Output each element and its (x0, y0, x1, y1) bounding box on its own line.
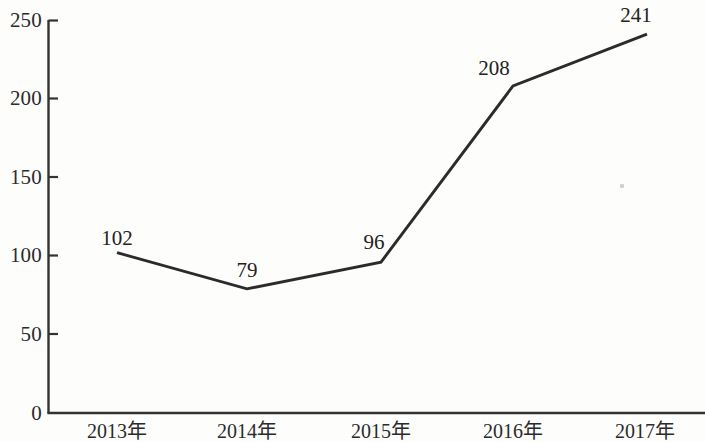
y-tick-label-50: 50 (0, 324, 42, 345)
y-tick-label-150: 150 (0, 167, 42, 188)
y-tick-label-200: 200 (0, 88, 42, 109)
data-label-2015: 96 (324, 232, 424, 253)
data-label-2016: 208 (444, 58, 544, 79)
y-axis-ticks (49, 21, 59, 335)
data-label-2014: 79 (197, 260, 297, 281)
data-label-2013: 102 (67, 228, 167, 249)
chart-figure: 250 200 150 100 50 0 2013年 2014年 2015年 2… (0, 0, 705, 442)
x-tick-label-2013: 2013年 (57, 421, 177, 441)
x-tick-label-2015: 2015年 (321, 421, 441, 441)
x-tick-label-2017: 2017年 (585, 421, 705, 441)
data-label-2017: 241 (586, 5, 686, 26)
x-tick-label-2016: 2016年 (453, 421, 573, 441)
y-tick-label-250: 250 (0, 10, 42, 31)
x-tick-label-2014: 2014年 (187, 421, 307, 441)
y-tick-label-100: 100 (0, 245, 42, 266)
line-chart-canvas (0, 0, 705, 442)
y-tick-label-0: 0 (0, 403, 42, 424)
scan-artifact-speck (620, 184, 624, 188)
